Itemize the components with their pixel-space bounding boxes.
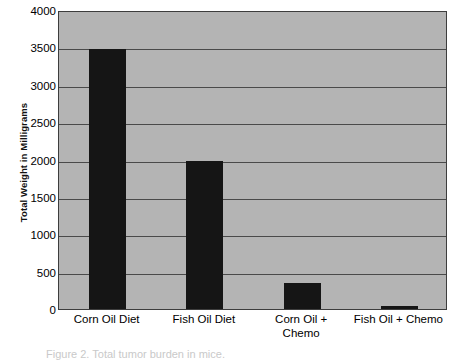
y-axis-tick-labels: 40003500300025002000150010005000 bbox=[10, 0, 56, 355]
y-tick-label: 3500 bbox=[10, 43, 56, 54]
bar bbox=[381, 306, 418, 309]
y-tick-label: 3000 bbox=[10, 80, 56, 91]
y-tick-label: 0 bbox=[10, 305, 56, 316]
y-tick-label: 2500 bbox=[10, 118, 56, 129]
plot-area bbox=[58, 11, 447, 310]
x-axis-tick-labels: Corn Oil DietFish Oil DietCorn Oil +Chem… bbox=[58, 313, 447, 347]
bar-series bbox=[59, 12, 446, 309]
bar bbox=[284, 283, 321, 309]
y-tick-label: 500 bbox=[10, 267, 56, 278]
figure-caption: Figure 2. Total tumor burden in mice. bbox=[46, 348, 426, 360]
x-tick-label: Fish Oil + Chemo bbox=[350, 313, 447, 327]
y-tick-label: 4000 bbox=[10, 6, 56, 17]
bar bbox=[89, 49, 126, 309]
y-tick-label: 1500 bbox=[10, 192, 56, 203]
y-tick-label: 2000 bbox=[10, 155, 56, 166]
x-tick-label: Fish Oil Diet bbox=[155, 313, 252, 327]
bar bbox=[186, 161, 223, 309]
x-tick-label: Corn Oil Diet bbox=[58, 313, 155, 327]
x-tick-label: Corn Oil +Chemo bbox=[253, 313, 350, 340]
y-tick-label: 1000 bbox=[10, 230, 56, 241]
